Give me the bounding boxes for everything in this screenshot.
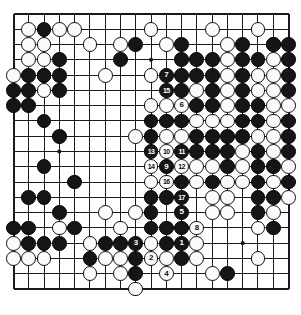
stone-black[interactable] — [113, 236, 128, 251]
numbered-stone-white[interactable]: 4 — [159, 266, 174, 281]
stone-black[interactable] — [281, 83, 296, 98]
numbered-stone-white[interactable]: 10 — [159, 144, 174, 159]
stone-black[interactable] — [67, 221, 82, 236]
stone-black[interactable] — [21, 190, 36, 205]
stone-white[interactable] — [266, 129, 281, 144]
stone-white[interactable] — [98, 251, 113, 266]
stone-white[interactable] — [266, 205, 281, 220]
stone-black[interactable] — [281, 114, 296, 129]
stone-black[interactable] — [266, 37, 281, 52]
stone-white[interactable] — [6, 251, 21, 266]
stone-black[interactable] — [220, 159, 235, 174]
stone-black[interactable] — [266, 190, 281, 205]
stone-black[interactable] — [235, 68, 250, 83]
stone-white[interactable] — [266, 175, 281, 190]
numbered-stone-black[interactable]: 9 — [159, 159, 174, 174]
stone-white[interactable] — [220, 114, 235, 129]
stone-white[interactable] — [159, 251, 174, 266]
stone-black[interactable] — [205, 98, 220, 113]
stone-black[interactable] — [281, 129, 296, 144]
stone-black[interactable] — [174, 83, 189, 98]
stone-white[interactable] — [266, 144, 281, 159]
numbered-stone-black[interactable]: 3 — [128, 236, 143, 251]
stone-white[interactable] — [205, 190, 220, 205]
stone-black[interactable] — [37, 236, 52, 251]
stone-black[interactable] — [159, 236, 174, 251]
stone-white[interactable] — [205, 22, 220, 37]
stone-black[interactable] — [174, 114, 189, 129]
stone-black[interactable] — [251, 144, 266, 159]
stone-white[interactable] — [205, 114, 220, 129]
stone-black[interactable] — [6, 221, 21, 236]
stone-black[interactable] — [251, 190, 266, 205]
stone-white[interactable] — [205, 205, 220, 220]
stone-white[interactable] — [144, 236, 159, 251]
stone-black[interactable] — [128, 251, 143, 266]
stone-black[interactable] — [189, 129, 204, 144]
stone-black[interactable] — [220, 129, 235, 144]
stone-black[interactable] — [235, 129, 250, 144]
numbered-stone-white[interactable]: 16 — [159, 175, 174, 190]
stone-white[interactable] — [281, 159, 296, 174]
stone-black[interactable] — [205, 83, 220, 98]
numbered-stone-white[interactable]: 2 — [144, 251, 159, 266]
numbered-stone-black[interactable]: 15 — [159, 83, 174, 98]
stone-white[interactable] — [144, 22, 159, 37]
stone-black[interactable] — [37, 22, 52, 37]
numbered-stone-black[interactable]: 11 — [174, 144, 189, 159]
stone-black[interactable] — [6, 83, 21, 98]
stone-white[interactable] — [266, 83, 281, 98]
stone-black[interactable] — [159, 221, 174, 236]
stone-black[interactable] — [174, 221, 189, 236]
stone-white[interactable] — [189, 83, 204, 98]
stone-white[interactable] — [21, 22, 36, 37]
stone-black[interactable] — [37, 190, 52, 205]
stone-white[interactable] — [266, 98, 281, 113]
stone-black[interactable] — [21, 83, 36, 98]
stone-black[interactable] — [281, 68, 296, 83]
numbered-stone-black[interactable]: 13 — [144, 144, 159, 159]
stone-white[interactable] — [220, 37, 235, 52]
stone-black[interactable] — [281, 37, 296, 52]
stone-black[interactable] — [52, 129, 67, 144]
stone-white[interactable] — [205, 159, 220, 174]
stone-white[interactable] — [189, 251, 204, 266]
stone-white[interactable] — [251, 68, 266, 83]
stone-black[interactable] — [144, 190, 159, 205]
stone-black[interactable] — [159, 190, 174, 205]
stone-white[interactable] — [235, 144, 250, 159]
stone-white[interactable] — [205, 266, 220, 281]
stone-black[interactable] — [113, 52, 128, 67]
stone-white[interactable] — [113, 37, 128, 52]
stone-white[interactable] — [159, 129, 174, 144]
stone-black[interactable] — [52, 52, 67, 67]
stone-black[interactable] — [220, 266, 235, 281]
stone-white[interactable] — [128, 129, 143, 144]
stone-white[interactable] — [6, 68, 21, 83]
stone-black[interactable] — [220, 144, 235, 159]
stone-white[interactable] — [189, 236, 204, 251]
stone-black[interactable] — [174, 251, 189, 266]
stone-black[interactable] — [159, 114, 174, 129]
stone-white[interactable] — [251, 83, 266, 98]
stone-black[interactable] — [52, 68, 67, 83]
stone-black[interactable] — [205, 52, 220, 67]
stone-white[interactable] — [98, 68, 113, 83]
stone-white[interactable] — [83, 37, 98, 52]
stone-white[interactable] — [21, 251, 36, 266]
stone-black[interactable] — [98, 236, 113, 251]
stone-black[interactable] — [174, 68, 189, 83]
stone-black[interactable] — [235, 37, 250, 52]
stone-white[interactable] — [83, 236, 98, 251]
stone-white[interactable] — [220, 68, 235, 83]
stone-white[interactable] — [37, 83, 52, 98]
stone-black[interactable] — [83, 251, 98, 266]
stone-black[interactable] — [189, 68, 204, 83]
stone-white[interactable] — [113, 251, 128, 266]
stone-black[interactable] — [144, 129, 159, 144]
stone-white[interactable] — [220, 205, 235, 220]
stone-black[interactable] — [21, 68, 36, 83]
stone-white[interactable] — [6, 236, 21, 251]
stone-white[interactable] — [52, 221, 67, 236]
stone-black[interactable] — [52, 205, 67, 220]
